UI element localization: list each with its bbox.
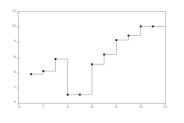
y-tick-mark [17, 27, 19, 28]
data-point-marker [103, 54, 105, 56]
x-tick-mark [19, 103, 20, 105]
data-point-marker [30, 73, 32, 75]
x-tick-mark [92, 103, 93, 105]
data-point-marker [55, 58, 57, 60]
y-tick-mark [17, 72, 19, 73]
data-point-marker [140, 25, 142, 27]
data-point-marker [67, 94, 69, 96]
x-tick-mark [165, 103, 166, 105]
data-point-marker [91, 63, 93, 65]
x-tick-mark [43, 103, 44, 105]
data-point-marker [79, 94, 81, 96]
y-tick-mark [17, 57, 19, 58]
plot-axes: 024681012024681012 [18, 11, 166, 104]
data-point-marker [152, 25, 154, 27]
x-tick-mark [116, 103, 117, 105]
y-tick-mark [17, 12, 19, 13]
x-tick-mark [67, 103, 68, 105]
data-point-marker [128, 35, 130, 37]
x-tick-mark [140, 103, 141, 105]
y-tick-mark [17, 87, 19, 88]
figure-canvas: 024681012024681012 [0, 0, 184, 123]
y-tick-mark [17, 42, 19, 43]
data-point-marker [42, 70, 44, 72]
data-markers-layer [19, 12, 165, 103]
data-point-marker [115, 39, 117, 41]
